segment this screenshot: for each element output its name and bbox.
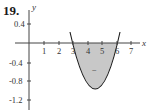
negative-sign-label: −: [92, 65, 97, 75]
x-tick-label: 3: [71, 46, 75, 56]
y-tick-label: 0.4: [14, 19, 25, 29]
y-axis-label: y: [31, 2, 36, 12]
y-tick-label: -1.2: [9, 95, 22, 105]
x-tick-label: 1: [42, 46, 46, 56]
y-tick-label: -0.8: [9, 76, 22, 86]
chart: 0.4 -0.4 -0.8 -1.2 1 2 3 4 5 6 7 y x −: [0, 0, 149, 111]
y-tick-label: -0.4: [9, 58, 23, 68]
x-tick-label: 5: [100, 46, 104, 56]
x-tick-label: 7: [129, 46, 133, 56]
x-axis-label: x: [141, 38, 146, 48]
x-tick-label: 6: [115, 46, 119, 56]
x-tick-label: 2: [57, 46, 61, 56]
